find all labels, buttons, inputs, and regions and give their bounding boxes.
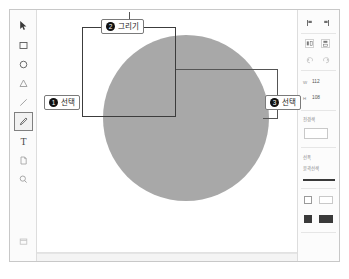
pointer-tool[interactable]	[14, 16, 33, 35]
panel-divider-5	[301, 188, 336, 189]
line-tool[interactable]	[14, 93, 33, 112]
outline-option-swatch[interactable]	[319, 196, 333, 204]
panel-divider-6	[301, 232, 336, 233]
canvas-horizontal-scrollbar[interactable]	[37, 253, 297, 261]
pen-icon	[18, 116, 29, 127]
layers-icon	[18, 236, 29, 247]
align-right-button[interactable]	[321, 18, 330, 27]
page-tool[interactable]	[14, 151, 33, 170]
callout-2-label: 그리기	[118, 23, 139, 31]
callout-3-label: 선택	[282, 99, 296, 107]
callout-2-number: 2	[106, 22, 115, 31]
magnifier-icon	[18, 174, 29, 185]
fill-color-swatch[interactable]	[304, 128, 328, 139]
rectangle-shape[interactable]	[82, 27, 176, 117]
leader-line-3a	[176, 69, 277, 70]
leader-line-3c	[263, 118, 278, 119]
line-icon	[18, 97, 29, 108]
callout-1-number: 1	[49, 98, 58, 107]
pen-tool[interactable]	[14, 112, 33, 131]
triangle-icon	[18, 78, 29, 89]
callout-select-shape[interactable]: 3 선택	[265, 95, 301, 110]
fill-option-swatch[interactable]	[319, 215, 333, 223]
page-icon	[18, 155, 29, 166]
cursor-arrow-icon	[18, 20, 29, 31]
callout-1-label: 선택	[61, 99, 75, 107]
leader-line-3b	[277, 69, 278, 118]
canvas-area[interactable]	[37, 10, 297, 261]
panel-divider-4	[301, 147, 336, 148]
circle-icon	[18, 59, 29, 70]
rotate-left-button[interactable]	[305, 55, 314, 64]
triangle-tool[interactable]	[14, 74, 33, 93]
height-label: H	[303, 97, 306, 101]
panel-divider-2	[301, 70, 336, 71]
panel-divider-3	[301, 110, 336, 111]
layers-tool[interactable]	[14, 232, 33, 251]
flip-vertical-button[interactable]	[321, 39, 330, 48]
canvas-sheet[interactable]	[37, 10, 297, 253]
fill-option-checkbox[interactable]	[304, 215, 312, 223]
zoom-tool[interactable]	[14, 170, 33, 189]
square-icon	[18, 40, 29, 51]
height-value[interactable]: 108	[312, 96, 320, 101]
callout-select-tool[interactable]: 1 선택	[44, 95, 80, 110]
flip-horizontal-button[interactable]	[305, 39, 314, 48]
width-value[interactable]: 112	[312, 80, 320, 85]
rotate-right-button[interactable]	[321, 55, 330, 64]
stroke-preview[interactable]	[303, 179, 335, 181]
rectangle-tool[interactable]	[14, 36, 33, 55]
ellipse-tool[interactable]	[14, 55, 33, 74]
align-left-button[interactable]	[305, 18, 314, 27]
outline-color-label: 윤곽선색	[303, 167, 319, 171]
app-window: T	[9, 9, 340, 262]
tool-rail: T	[10, 10, 37, 261]
text-t-icon: T	[20, 137, 26, 147]
width-label: W	[303, 81, 307, 85]
callout-3-number: 3	[270, 98, 279, 107]
text-tool[interactable]: T	[14, 132, 33, 151]
panel-divider-1	[301, 33, 336, 34]
stroke-width-label: 선폭	[303, 156, 311, 160]
fill-color-label: 전경색	[303, 118, 315, 122]
properties-panel: W 112 H 108 전경색 선폭 윤곽선색	[297, 10, 339, 261]
outline-option-checkbox[interactable]	[304, 196, 312, 204]
callout-draw[interactable]: 2 그리기	[101, 19, 144, 34]
